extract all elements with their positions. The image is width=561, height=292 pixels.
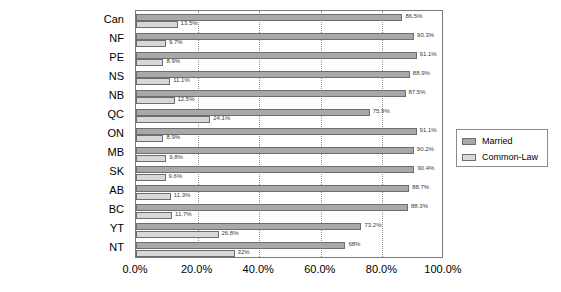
bar-value-label: 91.1% [420,125,437,135]
bar-group: 68%32% [136,240,442,258]
x-axis-tick-label: 0.0% [122,262,147,276]
y-axis-tick-label: ON [108,127,125,139]
x-axis-tick-label: 60.0% [304,262,335,276]
bar[interactable] [136,109,370,116]
y-axis-tick-label: PE [109,51,124,63]
legend-swatch-icon [462,138,476,145]
bar-group: 86.5%13.5% [136,11,442,30]
bar-group: 91.1%8.9% [136,125,442,144]
y-axis-tick-label: SK [109,165,124,177]
bar-group: 87.5%12.5% [136,87,442,106]
y-axis-tick-label: QC [108,108,125,120]
bar-value-label: 8.9% [166,56,180,66]
bar-group: 90.3%9.7% [136,30,442,49]
bar-group: 90.2%9.8% [136,145,442,164]
legend-label: Married [482,136,513,146]
plot-area: 86.5%13.5%90.3%9.7%91.1%8.9%88.9%11.1%87… [135,10,443,258]
bar-group: 88.7%11.3% [136,183,442,202]
y-axis-tick-label: BC [109,203,124,215]
bar[interactable] [136,223,361,230]
y-axis-tick-label: NF [109,32,124,44]
bar-chart: CanNFPENSNBQCONMBSKABBCYTNT 86.5%13.5%90… [0,0,561,292]
bar[interactable] [136,193,171,200]
bar-value-label: 87.5% [409,87,426,97]
bar-group: 90.4%9.6% [136,164,442,183]
bar-rows: 86.5%13.5%90.3%9.7%91.1%8.9%88.9%11.1%87… [136,11,442,257]
y-axis-tick-label: NB [109,89,124,101]
bar-value-label: 88.7% [412,182,429,192]
legend: MarriedCommon-Law [456,129,548,167]
y-axis-tick-label: NS [109,70,124,82]
bar-group: 91.1%8.9% [136,49,442,68]
bar-value-label: 24.1% [213,113,230,123]
y-axis-tick-label: MB [108,146,125,158]
bar[interactable] [136,135,163,142]
y-axis-labels: CanNFPENSNBQCONMBSKABBCYTNT [0,10,130,258]
bar-value-label: 90.3% [417,30,434,40]
bar[interactable] [136,155,166,162]
bar[interactable] [136,250,235,257]
bar[interactable] [136,116,210,123]
bar-value-label: 73.2% [364,220,381,230]
bar-value-label: 8.9% [166,132,180,142]
bar-group: 73.2%26.8% [136,221,442,240]
bar[interactable] [136,14,402,21]
bar-value-label: 91.1% [420,49,437,59]
x-axis-tick-label: 40.0% [243,262,274,276]
bar[interactable] [136,174,166,181]
bar-value-label: 9.6% [169,171,183,181]
bar-value-label: 32% [238,247,250,257]
bar[interactable] [136,40,166,47]
bar[interactable] [136,59,163,66]
bar-value-label: 11.1% [173,75,190,85]
bar[interactable] [136,212,172,219]
y-axis-tick-label: AB [109,184,124,196]
bar-value-label: 13.5% [181,18,198,28]
bar-group: 88.3%11.7% [136,202,442,221]
bar-value-label: 88.9% [413,68,430,78]
bar-value-label: 11.7% [175,209,192,219]
bar[interactable] [136,21,178,28]
x-axis-tick-label: 100.0% [424,262,461,276]
y-axis-tick-label: Can [104,13,124,25]
x-axis-labels: 0.0%20.0%40.0%60.0%80.0%100.0% [135,262,443,282]
bar[interactable] [136,97,175,104]
legend-swatch-icon [462,154,476,161]
x-axis-tick-label: 80.0% [366,262,397,276]
y-axis-tick-label: NT [109,241,124,253]
bar-value-label: 90.2% [417,144,434,154]
bar-value-label: 11.3% [174,190,191,200]
x-axis-tick-label: 20.0% [181,262,212,276]
bar-value-label: 68% [348,239,360,249]
bar-value-label: 90.4% [417,163,434,173]
bar-value-label: 75.9% [373,106,390,116]
legend-label: Common-Law [482,152,538,162]
bar-group: 75.9%24.1% [136,106,442,125]
bar-group: 88.9%11.1% [136,68,442,87]
bar-value-label: 9.8% [169,152,183,162]
bar-value-label: 88.3% [411,201,428,211]
bar[interactable] [136,78,170,85]
bar-value-label: 9.7% [169,37,183,47]
bar-value-label: 26.8% [222,228,239,238]
bar-value-label: 12.5% [178,94,195,104]
bar[interactable] [136,90,406,97]
legend-item[interactable]: Married [462,134,542,148]
bar-value-label: 86.5% [405,11,422,21]
bar[interactable] [136,231,219,238]
y-axis-tick-label: YT [110,222,124,234]
legend-item[interactable]: Common-Law [462,150,542,164]
